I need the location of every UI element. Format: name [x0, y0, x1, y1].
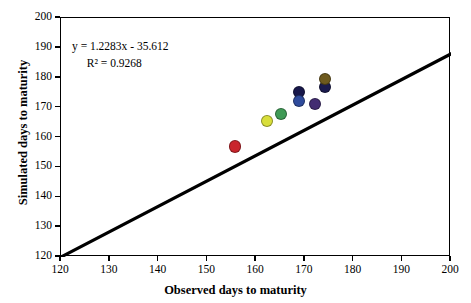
y-tick-mark [55, 76, 60, 78]
y-tick-mark [55, 166, 60, 168]
regression-annotation: y = 1.2283x - 35.612 R² = 0.9268 [72, 38, 169, 71]
x-tick-mark [401, 256, 403, 261]
x-tick-mark [108, 256, 110, 261]
y-tick-mark [55, 46, 60, 48]
scatter-chart: 120130140150160170180190200 120130140150… [0, 0, 471, 303]
x-tick-label: 170 [287, 263, 321, 275]
y-tick-mark [55, 196, 60, 198]
x-tick-mark [59, 256, 61, 261]
x-tick-label: 140 [141, 263, 175, 275]
x-tick-label: 180 [336, 263, 370, 275]
x-tick-mark [254, 256, 256, 261]
x-tick-label: 160 [238, 263, 272, 275]
x-tick-label: 190 [384, 263, 418, 275]
y-tick-mark [55, 136, 60, 138]
x-tick-mark [449, 256, 451, 261]
x-tick-mark [352, 256, 354, 261]
y-axis-title: Simulated days to maturity [16, 33, 31, 233]
x-tick-label: 120 [43, 263, 77, 275]
x-tick-mark [303, 256, 305, 261]
x-tick-label: 130 [92, 263, 126, 275]
x-tick-label: 150 [189, 263, 223, 275]
y-tick-label: 200 [22, 10, 52, 22]
y-tick-mark [55, 106, 60, 108]
x-axis-title: Observed days to maturity [0, 283, 471, 298]
regression-equation: y = 1.2283x - 35.612 [72, 38, 169, 55]
x-tick-label: 200 [433, 263, 467, 275]
x-tick-mark [157, 256, 159, 261]
y-tick-mark [55, 225, 60, 227]
y-tick-label: 120 [22, 249, 52, 261]
regression-r-squared: R² = 0.9268 [72, 55, 169, 72]
y-tick-mark [55, 16, 60, 18]
x-tick-mark [206, 256, 208, 261]
